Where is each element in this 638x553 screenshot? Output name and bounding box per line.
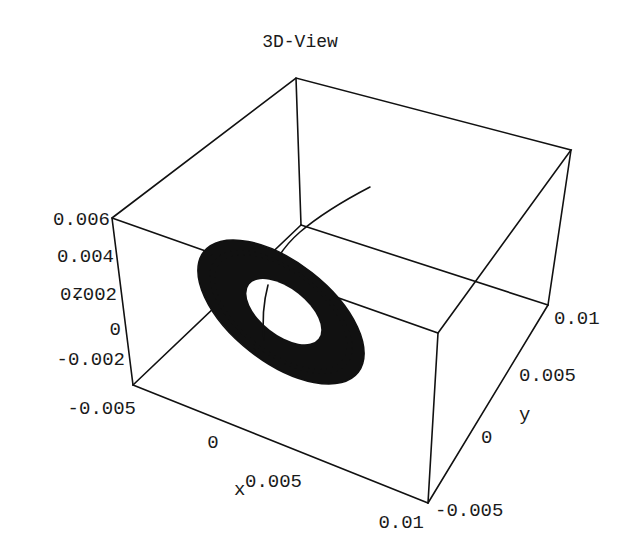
box-edge-back-vertical xyxy=(296,78,301,225)
bounding-box xyxy=(112,78,571,503)
box-edge-bottom-back-right xyxy=(301,225,548,305)
z-axis-label: z xyxy=(72,282,83,304)
box-top-face xyxy=(112,78,571,333)
x-axis-ticks: -0.005 0 0.005 x 0.01 xyxy=(68,398,424,534)
box-edge-front-vertical xyxy=(428,333,438,503)
x-tick: -0.005 xyxy=(68,398,136,420)
y-axis-label: y xyxy=(519,404,530,426)
y-tick: -0.005 xyxy=(435,500,503,522)
x-tick: 0 xyxy=(207,432,218,454)
z-tick: 0.006 xyxy=(53,209,110,231)
x-axis-label: x xyxy=(234,479,245,501)
z-tick: -0.002 xyxy=(57,349,125,371)
plot-3d-view: 3D-View 0.006 0.004 0.002 z 0 -0.002 xyxy=(0,0,638,553)
z-tick: 0.002 xyxy=(60,284,117,306)
z-tick: 0 xyxy=(110,319,121,341)
y-tick: 0.005 xyxy=(519,365,576,387)
y-axis-ticks: -0.005 0 y 0.005 0.01 xyxy=(435,308,600,522)
y-tick: 0 xyxy=(481,427,492,449)
x-tick: 0.005 xyxy=(245,471,302,493)
z-tick: 0.004 xyxy=(57,246,114,268)
x-tick: 0.01 xyxy=(378,512,424,534)
box-edge-right-vertical xyxy=(548,150,571,305)
y-tick: 0.01 xyxy=(554,308,600,330)
chart-title: 3D-View xyxy=(262,32,338,52)
